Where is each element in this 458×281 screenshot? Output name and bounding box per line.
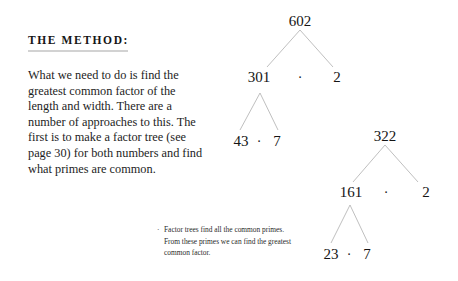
tree-node-322: 322: [374, 129, 397, 144]
caption-text: Factor trees find all the common primes.…: [157, 224, 299, 259]
multiply-dot-602: ·: [298, 71, 303, 85]
branch-161-to-7: [350, 205, 368, 243]
tree-node-602: 602: [289, 14, 312, 29]
multiply-dot-301: ·: [257, 135, 262, 149]
tree-node-7-second: 7: [363, 247, 371, 262]
figure-caption: · Factor trees find all the common prime…: [157, 224, 299, 259]
branch-322-to-2: [385, 145, 418, 182]
tree-node-7-first: 7: [273, 134, 281, 149]
tree-node-23: 23: [324, 247, 339, 262]
multiply-dot-322: ·: [384, 186, 389, 200]
caption-bullet-icon: ·: [157, 224, 159, 236]
tree-node-301: 301: [248, 70, 271, 85]
tree-node-161: 161: [340, 185, 363, 200]
tree-node-43: 43: [234, 134, 249, 149]
method-text-column: THE METHOD: What we need to do is find t…: [28, 34, 208, 177]
branch-301-to-7: [260, 93, 278, 130]
multiply-dot-161: ·: [347, 248, 352, 262]
tree-node-2-first: 2: [333, 70, 341, 85]
branch-301-to-43: [240, 93, 260, 130]
branch-322-to-161: [353, 145, 385, 182]
page-canvas: THE METHOD: What we need to do is find t…: [0, 0, 458, 281]
page-title: THE METHOD:: [28, 34, 208, 46]
branch-161-to-23: [331, 205, 350, 243]
tree-node-2-second: 2: [422, 185, 430, 200]
body-paragraph: What we need to do is find the greatest …: [28, 52, 208, 177]
branch-602-to-2: [300, 30, 333, 67]
branch-602-to-301: [267, 30, 300, 67]
